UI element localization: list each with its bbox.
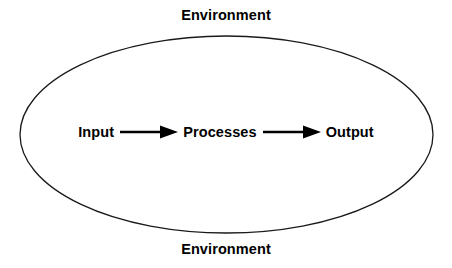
arrow-processes-to-output-icon (263, 122, 321, 142)
system-diagram: Environment Input Processes Output Envir… (0, 0, 452, 268)
node-output: Output (326, 122, 374, 142)
environment-label-top: Environment (0, 7, 452, 23)
node-processes: Processes (183, 122, 256, 142)
environment-label-bottom: Environment (0, 241, 452, 257)
arrow-input-to-processes-icon (120, 122, 178, 142)
node-input: Input (78, 122, 114, 142)
flow-row: Input Processes Output (0, 121, 452, 143)
